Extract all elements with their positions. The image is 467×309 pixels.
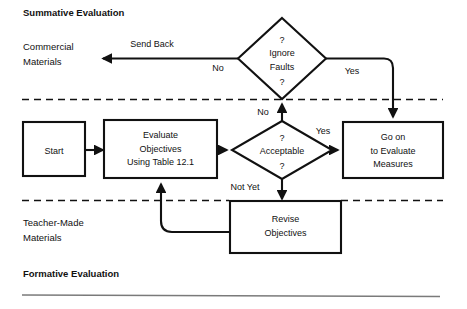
edge-label-ignore-faults-no: No xyxy=(212,63,224,73)
edge-ignore-faults-yes xyxy=(326,59,393,118)
edge-label-acceptable-no: No xyxy=(257,107,269,117)
node-revise-objectives-line2: Objectives xyxy=(264,228,307,238)
edge-label-acceptable-not-yet: Not Yet xyxy=(230,182,260,192)
node-revise-objectives-line1: Revise xyxy=(272,214,300,224)
side-label-teacher-made-line2: Materials xyxy=(23,232,62,243)
node-acceptable-label: Acceptable xyxy=(260,146,305,156)
node-evaluate-objectives-line1: Evaluate xyxy=(143,130,178,140)
node-go-on-line1: Go on xyxy=(381,132,406,142)
edge-label-ignore-faults-yes: Yes xyxy=(345,66,360,76)
node-go-on-line3: Measures xyxy=(373,159,413,169)
edge-label-acceptable-yes: Yes xyxy=(316,126,331,136)
node-start-label: Start xyxy=(44,146,64,156)
node-evaluate-objectives-line2: Objectives xyxy=(139,144,182,154)
flowchart-figure: Start Evaluate Objectives Using Table 12… xyxy=(0,0,467,309)
side-label-commercial-line2: Materials xyxy=(23,56,62,67)
node-ignore-faults-question-top: ? xyxy=(279,35,284,45)
side-label-teacher-made-line1: Teacher-Made xyxy=(23,217,84,228)
node-ignore-faults-question-bottom: ? xyxy=(279,77,284,87)
band-title-formative: Formative Evaluation xyxy=(23,268,119,279)
edge-revise-feedback xyxy=(161,184,230,232)
node-acceptable-question-top: ? xyxy=(279,133,284,143)
node-go-on-line2: to Evaluate xyxy=(370,146,415,156)
node-ignore-faults-line2: Faults xyxy=(270,62,295,72)
flowchart-canvas: Start Evaluate Objectives Using Table 12… xyxy=(0,0,467,309)
node-evaluate-objectives-line3: Using Table 12.1 xyxy=(127,157,194,167)
bottom-rule xyxy=(22,295,440,297)
band-title-summative: Summative Evaluation xyxy=(23,7,125,18)
side-label-commercial-line1: Commercial xyxy=(23,41,74,52)
node-ignore-faults-line1: Ignore xyxy=(269,48,295,58)
edge-label-send-back: Send Back xyxy=(130,39,174,49)
node-acceptable-question-bottom: ? xyxy=(279,161,284,171)
